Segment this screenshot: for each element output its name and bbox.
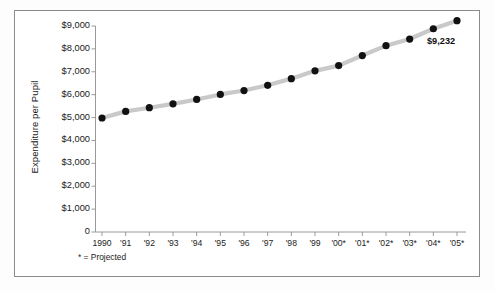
data-point-marker: [311, 67, 318, 74]
data-point-marker: [146, 104, 153, 111]
data-point-marker: [240, 87, 247, 94]
x-axis-tick-label: '05*: [437, 238, 477, 248]
data-point-marker: [193, 96, 200, 103]
data-point-marker: [335, 62, 342, 69]
data-point-marker: [217, 91, 224, 98]
data-point-marker: [122, 108, 129, 115]
data-point-marker: [98, 114, 105, 121]
data-line: [102, 21, 457, 118]
y-axis-tick-label: 0: [30, 226, 90, 236]
y-axis-tick-label: $7,000: [30, 66, 90, 76]
y-axis-tick-label: $2,000: [30, 180, 90, 190]
y-axis-tick-label: $3,000: [30, 157, 90, 167]
y-axis-tick-label: $6,000: [30, 89, 90, 99]
axis-lines: [96, 26, 467, 232]
data-point-marker: [359, 52, 366, 59]
data-point-marker: [169, 100, 176, 107]
data-point-marker: [288, 75, 295, 82]
data-point-marker: [430, 25, 437, 32]
data-point-marker: [453, 17, 460, 24]
data-point-marker: [382, 42, 389, 49]
y-axis-tick-label: $1,000: [30, 203, 90, 213]
y-axis-tick-label: $8,000: [30, 43, 90, 53]
y-axis-tick-label: $5,000: [30, 112, 90, 122]
y-axis-tick-label: $4,000: [30, 134, 90, 144]
y-axis-tick-label: $9,000: [30, 20, 90, 30]
data-point-marker: [264, 82, 271, 89]
end-value-annotation: $9,232: [427, 36, 455, 46]
chart-footnote: * = Projected: [78, 252, 126, 262]
data-point-marker: [406, 35, 413, 42]
chart-figure: Expenditure per Pupil $9,232 * = Project…: [0, 0, 495, 293]
